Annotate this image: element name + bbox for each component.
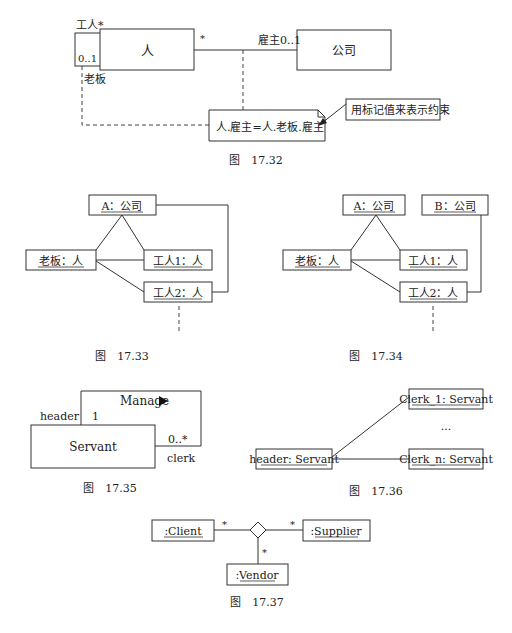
role-header: header (40, 410, 80, 423)
figure-17-35: Servant Manage header 1 0..* clerk 图 17.… (31, 391, 201, 495)
multiplicity-vendor: * (262, 547, 267, 558)
caption-17-35: 图 17.35 (83, 482, 137, 495)
caption-17-34: 图 17.34 (349, 350, 403, 363)
object-label: A：公司 (101, 200, 143, 213)
object-label: 工人2：人 (408, 287, 459, 300)
figure-17-34: A：公司 B：公司 老板：人 工人1：人 工人2：人 图 17.34 (283, 195, 488, 363)
link-header-clerk1 (332, 397, 409, 457)
multiplicity-header: 1 (92, 410, 99, 423)
role-clerk: clerk (167, 452, 195, 465)
multiplicity-clerk: 0..* (168, 433, 188, 446)
boss-role-label: 老板 (84, 72, 106, 86)
comment-text: 用标记值来表示约束 (351, 103, 450, 117)
constraint-text: 人.雇主=人.老板.雇主 (216, 120, 324, 134)
link-company-boss-worker1 (351, 215, 400, 250)
object-label: :Vendor (235, 569, 279, 582)
figure-17-36: header: Servant Clerk_1: Servant ... Cle… (249, 389, 493, 498)
comment-arrow-line (322, 104, 346, 123)
figure-17-32: 人 公司 工人* 0..1 老板 * 雇主0..1 人.雇主=人.老板.雇主 用… (75, 19, 450, 167)
figure-17-37: :Client :Supplier :Vendor * * * 图 17.37 (152, 519, 370, 609)
caption-17-37: 图 17.37 (230, 596, 284, 609)
link-companyB-worker2 (467, 215, 481, 292)
object-label: 老板：人 (39, 254, 83, 268)
caption-17-32: 图 17.32 (229, 154, 283, 167)
caption-17-36: 图 17.36 (349, 485, 403, 498)
object-label: :Client (164, 525, 202, 538)
ellipsis: ... (441, 420, 452, 433)
class-company-label: 公司 (332, 44, 356, 58)
class-person-label: 人 (141, 43, 154, 58)
multiplicity-client: * (222, 519, 227, 530)
workers-role-label: 工人* (76, 19, 104, 32)
object-label: 老板：人 (295, 254, 339, 268)
figure-17-33: A：公司 老板：人 工人1：人 工人2：人 图 17.33 (26, 195, 228, 363)
object-label: A：公司 (353, 200, 395, 213)
object-label: header: Servant (249, 453, 339, 466)
n-ary-association-diamond-icon (250, 522, 266, 538)
link-boss-worker2 (96, 261, 144, 292)
object-label: B：公司 (434, 200, 475, 213)
link-company-worker2 (156, 205, 228, 292)
class-servant-label: Servant (69, 440, 117, 454)
link-company-boss-worker1 (96, 215, 144, 250)
caption-17-33: 图 17.33 (95, 350, 149, 363)
object-label: Clerk_1: Servant (399, 393, 493, 406)
object-label: :Supplier (310, 525, 362, 538)
multiplicity-supplier: * (290, 519, 295, 530)
boss-multiplicity: 0..1 (78, 53, 97, 64)
person-end-multiplicity: * (200, 33, 205, 44)
link-boss-worker2 (351, 261, 400, 292)
employer-role-label: 雇主0..1 (258, 33, 301, 47)
uml-figures-page: 人 公司 工人* 0..1 老板 * 雇主0..1 人.雇主=人.老板.雇主 用… (0, 0, 512, 633)
object-label: 工人1：人 (153, 255, 204, 268)
object-label: Clerk_n: Servant (399, 453, 493, 466)
object-label: 工人2：人 (153, 287, 204, 300)
object-label: 工人1：人 (408, 255, 459, 268)
